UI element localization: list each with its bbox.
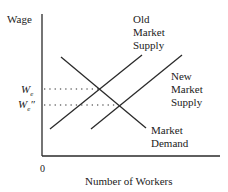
- we-sub: e: [30, 90, 33, 98]
- we2-prime: ″: [30, 98, 35, 110]
- new-supply-line-2: Market: [171, 83, 203, 96]
- old-supply-curve: [50, 55, 142, 129]
- old-supply-line-1: Old: [133, 13, 165, 26]
- wage-level-we2: We″: [18, 98, 35, 115]
- new-supply-label: New Market Supply: [171, 70, 203, 109]
- market-demand-curve: [61, 57, 146, 128]
- origin-label: 0: [40, 163, 45, 175]
- we2-main: W: [18, 98, 27, 110]
- demand-line-1: Market: [151, 124, 188, 137]
- new-supply-curve: [91, 55, 182, 129]
- old-supply-line-3: Supply: [133, 39, 165, 52]
- old-supply-label: Old Market Supply: [133, 13, 165, 52]
- old-supply-line-2: Market: [133, 26, 165, 39]
- new-supply-line-1: New: [171, 70, 203, 83]
- demand-line-2: Demand: [151, 137, 188, 150]
- new-supply-line-3: Supply: [171, 96, 203, 109]
- market-demand-label: Market Demand: [151, 124, 188, 150]
- x-axis-label: Number of Workers: [85, 175, 173, 187]
- y-axis-label: Wage: [7, 13, 32, 25]
- we-main: W: [21, 83, 30, 95]
